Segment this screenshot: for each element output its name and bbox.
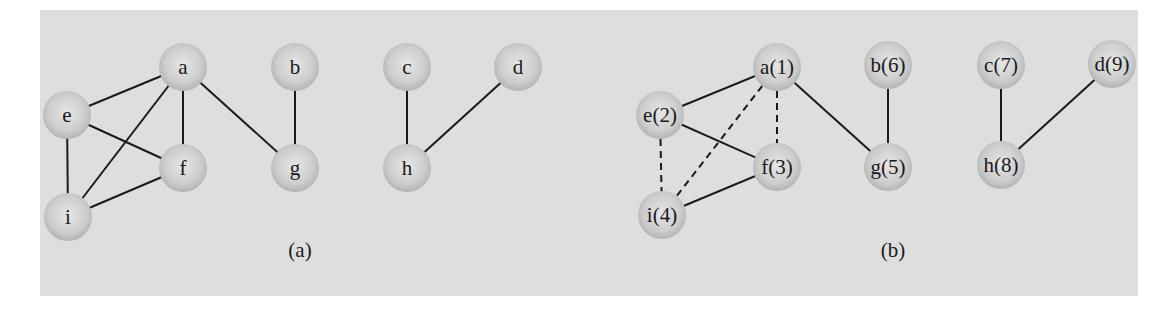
node-e: e [43, 91, 91, 139]
node-b: b(6) [864, 41, 912, 89]
node-g: g(5) [864, 143, 912, 191]
node-b: b [271, 43, 319, 91]
graph-b: a(1)b(6)c(7)d(9)e(2)f(3)g(5)h(8)i(4) (b) [636, 40, 1136, 262]
node-c: c [383, 43, 431, 91]
node-f: f [159, 144, 207, 192]
node-label: e(2) [643, 103, 677, 127]
graph-b-caption: (b) [881, 238, 906, 262]
graph-b-nodes: a(1)b(6)c(7)d(9)e(2)f(3)g(5)h(8)i(4) [636, 40, 1136, 239]
node-d: d [494, 43, 542, 91]
node-label: c [402, 55, 411, 79]
node-label: c(7) [984, 53, 1018, 77]
node-c: c(7) [977, 41, 1025, 89]
node-a: a [159, 43, 207, 91]
node-d: d(9) [1088, 40, 1136, 88]
node-f: f(3) [753, 143, 801, 191]
node-label: h [402, 156, 413, 180]
node-label: f [180, 156, 187, 180]
node-label: i [65, 205, 71, 229]
graph-a: abcdefghi (a) [43, 43, 542, 262]
node-label: f(3) [761, 155, 792, 179]
node-label: b(6) [871, 53, 906, 77]
node-label: h(8) [984, 153, 1019, 177]
node-i: i(4) [638, 191, 686, 239]
node-label: g [290, 156, 301, 180]
node-label: a [178, 55, 188, 79]
node-h: h [383, 144, 431, 192]
node-label: d [513, 55, 524, 79]
node-label: d(9) [1095, 52, 1130, 76]
graph-figure: abcdefghi (a) a(1)b(6)c(7)d(9)e(2)f(3)g(… [0, 0, 1172, 313]
node-e: e(2) [636, 91, 684, 139]
node-label: e [62, 103, 71, 127]
node-a: a(1) [753, 43, 801, 91]
graph-a-caption: (a) [288, 238, 311, 262]
node-h: h(8) [977, 141, 1025, 189]
node-label: b [290, 55, 301, 79]
node-label: i(4) [647, 203, 677, 227]
node-label: g(5) [871, 155, 906, 179]
node-i: i [44, 193, 92, 241]
node-label: a(1) [760, 55, 794, 79]
graph-a-nodes: abcdefghi [43, 43, 542, 241]
node-g: g [271, 144, 319, 192]
